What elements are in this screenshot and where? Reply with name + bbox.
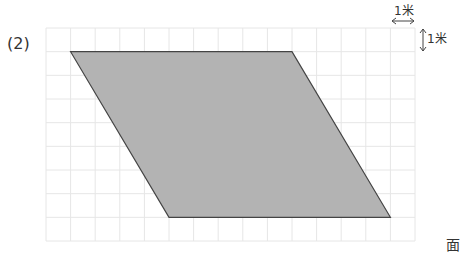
vertical-scale-arrow-icon [420, 29, 426, 51]
vertical-scale-label: 1米 [427, 29, 447, 46]
parallelogram-shape [71, 52, 391, 218]
horizontal-scale-arrow-icon [392, 18, 414, 24]
cut-off-text: 面 [446, 234, 460, 254]
horizontal-scale-label: 1米 [394, 1, 414, 18]
